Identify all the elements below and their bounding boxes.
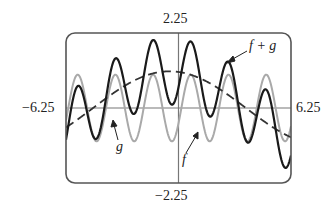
y-min-tick-label: −2.25	[155, 189, 187, 203]
y-max-tick-label: 2.25	[163, 12, 188, 26]
label-f: f	[182, 153, 186, 167]
x-min-tick-label: −6.25	[22, 101, 54, 115]
arrow-g-head	[111, 120, 117, 127]
arrow-g	[114, 125, 118, 140]
arrow-f-head	[193, 132, 198, 139]
label-g: g	[116, 140, 123, 154]
arrow-fg-head	[227, 56, 235, 63]
x-max-tick-label: 6.25	[296, 101, 321, 115]
label-f-plus-g: f + g	[249, 39, 276, 53]
arrow-f	[186, 136, 196, 153]
